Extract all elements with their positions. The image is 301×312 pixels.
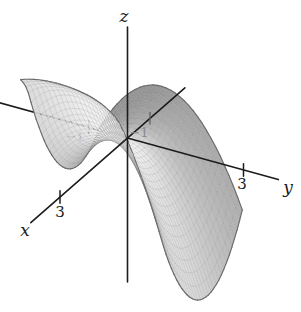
figure-canvas: −1 z y x 3 3 −1 (0, 0, 301, 312)
saddle-surface (21, 79, 243, 300)
surface-boundary-edge (144, 85, 149, 86)
x-axis-label: x (20, 220, 30, 240)
z-axis-label: z (119, 6, 130, 26)
y-axis-label: y (282, 177, 293, 197)
x-axis-tick-label-3: 3 (55, 203, 65, 221)
x-axis-tick-label-minus-1: −1 (129, 125, 148, 140)
surface-plot: −1 z y x 3 3 −1 (0, 0, 301, 312)
y-axis-tick-label-3: 3 (237, 175, 247, 193)
surface-boundary-edge (153, 85, 158, 86)
